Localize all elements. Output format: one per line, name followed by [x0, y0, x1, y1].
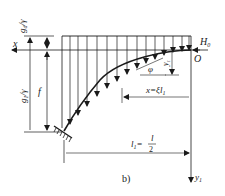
- thrust-label: H0: [199, 36, 210, 48]
- x-eq-label: x=ξl1: [145, 85, 165, 96]
- fixed-support-icon: [54, 126, 72, 142]
- arch-load-diagram: x gd/γ g1/γ f H0 O φ y1 x=ξl1 l1= l 2 y1…: [0, 0, 225, 196]
- gd-label: gd/γ: [17, 19, 28, 33]
- x-axis-label: x: [12, 38, 18, 49]
- half-span-numerator: l: [151, 133, 154, 143]
- half-span-denominator: 2: [149, 145, 153, 154]
- load-arrows: [70, 36, 189, 124]
- phi-label: φ: [148, 64, 153, 74]
- origin-label: O: [194, 53, 201, 64]
- g1-label: g1/γ: [18, 89, 29, 103]
- rise-label: f: [38, 86, 42, 97]
- half-span-label: l1=: [131, 139, 143, 150]
- y1-local-label: y1: [161, 60, 171, 67]
- panel-label: b): [122, 173, 130, 185]
- y-axis-label: y1: [194, 172, 202, 183]
